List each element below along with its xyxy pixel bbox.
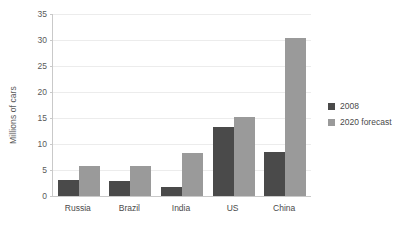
bar <box>182 153 203 196</box>
x-axis-tick-label: India <box>155 203 207 213</box>
legend: 20082020 forecast <box>328 98 392 130</box>
bar <box>285 38 306 196</box>
x-axis-tick-label: US <box>207 203 259 213</box>
y-axis-tick-label: 30 <box>38 35 47 45</box>
y-axis-tick-label: 0 <box>42 191 47 201</box>
y-axis-title: Millions of cars <box>6 0 20 230</box>
bar <box>79 166 100 196</box>
legend-swatch-icon <box>328 103 335 110</box>
y-axis-tick-label: 25 <box>38 61 47 71</box>
y-axis-tick-label: 20 <box>38 87 47 97</box>
y-axis-tick-label: 35 <box>38 9 47 19</box>
bar <box>109 181 130 196</box>
plot-area: 05101520253035 <box>52 14 310 196</box>
bar-group <box>156 14 208 196</box>
bar <box>161 187 182 196</box>
legend-swatch-icon <box>328 119 335 126</box>
bar <box>130 166 151 196</box>
y-axis-tick-label: 10 <box>38 139 47 149</box>
legend-label: 2020 forecast <box>340 117 392 127</box>
bar <box>234 117 255 196</box>
bar-group <box>53 14 105 196</box>
bar-chart: Millions of cars 05101520253035 RussiaBr… <box>0 0 408 230</box>
bar <box>264 152 285 196</box>
x-axis-line <box>52 196 311 197</box>
x-axis-tick-label: Russia <box>52 203 104 213</box>
bar <box>58 180 79 196</box>
bar-group <box>208 14 260 196</box>
x-axis-tick-label: China <box>258 203 310 213</box>
y-axis-tick-label: 15 <box>38 113 47 123</box>
y-axis-tick-label: 5 <box>42 165 47 175</box>
legend-label: 2008 <box>340 101 359 111</box>
legend-item: 2020 forecast <box>328 114 392 130</box>
bar <box>213 127 234 196</box>
bar-group <box>259 14 311 196</box>
legend-item: 2008 <box>328 98 392 114</box>
x-axis-tick-label: Brazil <box>104 203 156 213</box>
bar-group <box>105 14 157 196</box>
